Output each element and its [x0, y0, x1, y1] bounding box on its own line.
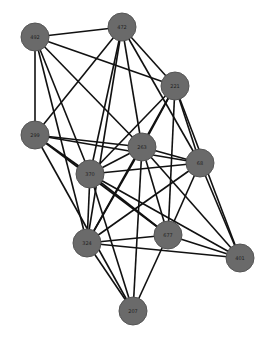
node-221[interactable]: 221	[161, 72, 189, 100]
node-label: 472	[117, 24, 127, 30]
edge-68-401	[200, 163, 240, 258]
node-68[interactable]: 68	[186, 149, 214, 177]
node-472[interactable]: 472	[108, 13, 136, 41]
node-207[interactable]: 207	[119, 297, 147, 325]
node-324[interactable]: 324	[73, 229, 101, 257]
node-label: 221	[170, 83, 180, 89]
network-graph: 49247222129926368370324677401207	[0, 0, 269, 345]
node-label: 207	[128, 308, 138, 314]
node-401[interactable]: 401	[226, 244, 254, 272]
node-label: 677	[163, 232, 173, 238]
node-263[interactable]: 263	[128, 133, 156, 161]
node-label: 401	[235, 255, 245, 261]
node-label: 68	[197, 160, 203, 166]
node-label: 263	[137, 144, 147, 150]
node-299[interactable]: 299	[21, 121, 49, 149]
edge-472-370	[90, 27, 122, 174]
node-label: 299	[30, 132, 40, 138]
edge-492-370	[35, 37, 90, 174]
edge-370-677	[90, 174, 168, 235]
node-label: 370	[85, 171, 95, 177]
node-label: 492	[30, 34, 40, 40]
edge-299-68	[35, 135, 200, 163]
edge-263-207	[133, 147, 142, 311]
node-492[interactable]: 492	[21, 23, 49, 51]
node-370[interactable]: 370	[76, 160, 104, 188]
node-label: 324	[82, 240, 92, 246]
node-677[interactable]: 677	[154, 221, 182, 249]
